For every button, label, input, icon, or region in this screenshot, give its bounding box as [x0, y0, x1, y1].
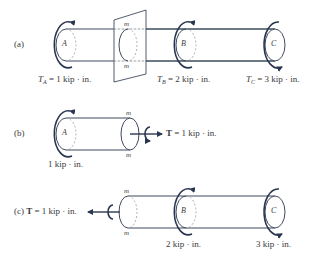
- section-mark-bottom-b: m: [126, 152, 131, 159]
- figure-c-shaft: [119, 196, 275, 228]
- torque-label-a: TA = 1 kip · in.: [38, 75, 91, 85]
- disk-label-c: C: [271, 40, 276, 48]
- figure-a-section-plane: [114, 10, 275, 82]
- torque-label-b-c: 2 kip · in.: [166, 240, 201, 249]
- section-mark-top: m: [124, 21, 129, 28]
- disk-label-a: A: [62, 40, 67, 48]
- figure-c-internal-torque-arrow: [88, 205, 120, 219]
- torque-label-c-c: 3 kip · in.: [256, 240, 291, 249]
- section-mark-bottom-c: m: [124, 230, 129, 237]
- disk-label-b-c: B: [181, 207, 186, 215]
- panel-label-a: (a): [14, 40, 24, 49]
- torque-label-c: TC = 3 kip · in.: [246, 75, 300, 85]
- torque-label-b: TB = 2 kip · in.: [157, 75, 210, 85]
- disk-label-c-c: C: [271, 207, 276, 215]
- disk-label-a-b: A: [62, 129, 67, 137]
- disk-label-b: B: [181, 40, 186, 48]
- section-mark-top-c: m: [124, 188, 129, 195]
- internal-torque-label-c: (c) T = 1 kip · in.: [14, 207, 77, 216]
- torque-label-a-b: 1 kip · in.: [48, 160, 83, 169]
- section-mark-top-b: m: [126, 110, 131, 117]
- section-mark-bottom: m: [124, 63, 129, 70]
- panel-label-b: (b): [14, 129, 25, 138]
- internal-torque-label-b: T = 1 kip · in.: [166, 129, 217, 138]
